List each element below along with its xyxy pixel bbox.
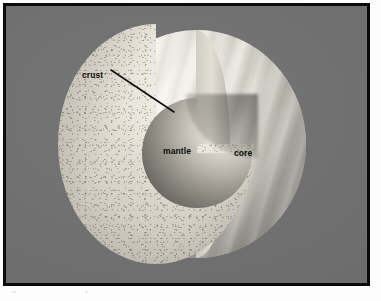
figure-caption-text: Figure the interior of the planet <box>5 291 365 294</box>
figure-caption: Figure the interior of the planet <box>5 291 365 301</box>
label-mantle: mantle <box>163 146 191 156</box>
label-crust: crust <box>82 70 103 80</box>
label-core: core <box>234 148 252 158</box>
planet-cutaway-illustration: crust mantle core <box>58 24 310 264</box>
crust-leader-line <box>110 68 176 114</box>
figure-frame: crust mantle core <box>3 3 370 286</box>
page-canvas: crust mantle core Figure the interior of… <box>0 0 381 301</box>
